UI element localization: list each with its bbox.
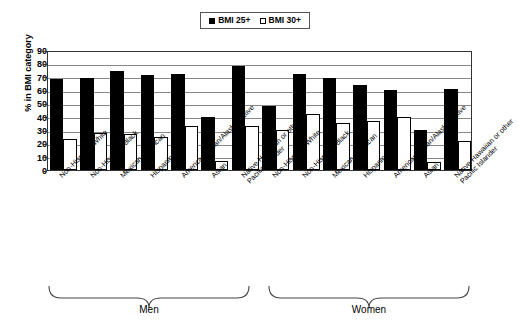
group-label-men: Men — [99, 304, 199, 315]
y-tick-label: 0 — [7, 167, 47, 176]
y-tick-label: 70 — [7, 73, 47, 82]
legend-swatch-hollow-icon — [260, 18, 266, 24]
y-tick-label: 10 — [7, 153, 47, 162]
y-tick-label: 30 — [7, 127, 47, 136]
group-brackets: Men Women — [47, 282, 472, 327]
legend-swatch-filled-icon — [209, 18, 215, 24]
legend-item-bmi30: BMI 30+ — [260, 16, 301, 25]
legend-item-bmi25: BMI 25+ — [209, 16, 250, 25]
x-axis-labels: Non-Hispanic WhiteNon-Hispanic BlackMexi… — [47, 171, 472, 266]
group-label-women: Women — [319, 304, 419, 315]
y-tick-label: 90 — [7, 47, 47, 56]
y-tick-label: 50 — [7, 100, 47, 109]
chart-legend: BMI 25+ BMI 30+ — [200, 12, 310, 29]
legend-label-bmi30: BMI 30+ — [269, 16, 301, 25]
y-tick-label: 40 — [7, 113, 47, 122]
y-axis: 0102030405060708090 — [0, 51, 47, 171]
legend-label-bmi25: BMI 25+ — [218, 16, 250, 25]
bar-bmi25 — [171, 74, 185, 170]
gridline — [48, 65, 471, 66]
y-tick-label: 60 — [7, 87, 47, 96]
y-tick-label: 20 — [7, 140, 47, 149]
bar-bmi25 — [50, 79, 64, 170]
y-tick-label: 80 — [7, 60, 47, 69]
